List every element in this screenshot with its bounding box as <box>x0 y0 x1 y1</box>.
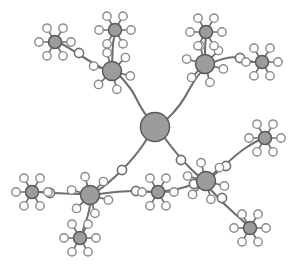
leaf-node-n3-1 <box>59 52 67 60</box>
leaf-node-n11-3 <box>183 172 191 180</box>
network-edge-n4-n5 <box>205 38 206 55</box>
link-bead-lower-right <box>217 193 226 202</box>
leaf-node-n8-0 <box>44 188 52 196</box>
branch-node-mid-bottom-node <box>152 186 165 199</box>
leaf-node-n6-2 <box>250 72 258 80</box>
leaf-node-n7-2 <box>72 204 80 212</box>
branch-node-bottom-left-term <box>74 232 87 245</box>
branch-node-bottom-right-term <box>244 222 257 235</box>
leaf-node-n13-0 <box>262 224 270 232</box>
leaf-node-n11-0 <box>220 182 228 190</box>
leaf-node-n10-0 <box>170 188 178 196</box>
leaf-node-n2-3 <box>95 26 103 34</box>
leaf-node-n13-2 <box>238 238 246 246</box>
leaf-node-n8-3 <box>12 188 20 196</box>
leaf-node-n10-4 <box>146 174 154 182</box>
leaf-node-n11-5 <box>215 163 223 171</box>
leaf-node-n6-4 <box>250 44 258 52</box>
leaf-node-n5-0 <box>218 28 226 36</box>
leaf-node-n1-2 <box>94 80 102 88</box>
leaf-node-n2-4 <box>103 12 111 20</box>
leaf-node-n9-4 <box>68 220 76 228</box>
branch-node-top-left-terminal <box>109 24 122 37</box>
leaf-node-n6-1 <box>266 72 274 80</box>
leaf-node-n5-1 <box>210 42 218 50</box>
leaf-node-n13-3 <box>230 224 238 232</box>
leaf-node-n12-0 <box>277 134 285 142</box>
leaf-node-n9-3 <box>60 234 68 242</box>
leaf-node-n8-1 <box>36 202 44 210</box>
branch-node-right-mid-terminal <box>259 132 272 145</box>
leaf-node-n12-1 <box>269 148 277 156</box>
branch-node-upper-left-hub <box>103 62 122 81</box>
leaf-node-n2-2 <box>103 40 111 48</box>
leaf-node-n1-0 <box>126 72 134 80</box>
leaf-node-n10-2 <box>146 202 154 210</box>
leaf-node-n3-5 <box>59 24 67 32</box>
leaf-node-n7-0 <box>104 196 112 204</box>
leaf-node-n11-4 <box>197 158 205 166</box>
leaf-node-n4-3 <box>182 55 190 63</box>
leaf-node-n6-5 <box>266 44 274 52</box>
leaf-node-n1-3 <box>89 62 97 70</box>
leaf-node-n12-5 <box>269 120 277 128</box>
branch-node-right-top-terminal <box>256 56 269 69</box>
leaf-node-n6-3 <box>242 58 250 66</box>
leaf-node-n9-5 <box>84 220 92 228</box>
leaf-node-n4-2 <box>187 73 195 81</box>
leaf-node-n6-0 <box>274 58 282 66</box>
leaf-node-n2-5 <box>119 12 127 20</box>
leaf-node-n13-4 <box>238 210 246 218</box>
leaf-node-n4-1 <box>206 78 214 86</box>
leaf-node-n9-0 <box>92 234 100 242</box>
leaf-node-n3-2 <box>43 52 51 60</box>
leaf-node-n12-3 <box>245 134 253 142</box>
link-bead-upper-left <box>74 48 83 57</box>
leaf-node-n2-1 <box>119 40 127 48</box>
leaf-node-n3-4 <box>43 24 51 32</box>
leaf-node-n7-3 <box>67 186 75 194</box>
leaf-node-n3-0 <box>67 38 75 46</box>
leaf-node-n11-2 <box>188 190 196 198</box>
leaf-node-n8-5 <box>36 174 44 182</box>
leaf-node-n12-2 <box>253 148 261 156</box>
leaf-node-n12-4 <box>253 120 261 128</box>
leaf-node-n1-1 <box>113 85 121 93</box>
leaf-node-n10-5 <box>162 174 170 182</box>
branch-node-lower-left-hub <box>81 186 100 205</box>
leaf-node-n5-4 <box>194 14 202 22</box>
leaf-node-n8-4 <box>20 174 28 182</box>
leaf-node-n3-3 <box>35 38 43 46</box>
leaf-node-n9-1 <box>84 248 92 256</box>
leaf-node-n2-0 <box>127 26 135 34</box>
leaf-node-n11-1 <box>207 195 215 203</box>
branch-node-lower-right-hub <box>197 172 216 191</box>
leaf-node-n1-4 <box>103 48 111 56</box>
network-diagram-canvas <box>0 0 302 273</box>
link-bead-center-right <box>176 155 185 164</box>
leaf-node-n4-0 <box>219 65 227 73</box>
leaf-node-n8-2 <box>20 202 28 210</box>
leaf-node-n9-2 <box>68 248 76 256</box>
leaf-node-n13-5 <box>254 210 262 218</box>
leaf-node-n10-3 <box>138 188 146 196</box>
leaf-node-n10-1 <box>162 202 170 210</box>
branch-node-far-left-terminal <box>49 36 62 49</box>
leaf-node-n5-5 <box>210 14 218 22</box>
leaf-node-n1-5 <box>121 53 129 61</box>
leaf-node-n7-4 <box>81 172 89 180</box>
branch-node-top-right-terminal <box>200 26 213 39</box>
leaf-node-n5-3 <box>186 28 194 36</box>
link-bead-center-left <box>117 165 126 174</box>
leaf-node-n13-1 <box>254 238 262 246</box>
core-node-core <box>141 113 170 142</box>
leaf-node-n7-5 <box>99 177 107 185</box>
branch-node-upper-right-hub <box>196 55 215 74</box>
branch-node-left-terminal <box>26 186 39 199</box>
leaf-node-n5-2 <box>194 42 202 50</box>
leaf-node-n7-1 <box>91 209 99 217</box>
dendrimer-figure <box>0 0 302 273</box>
